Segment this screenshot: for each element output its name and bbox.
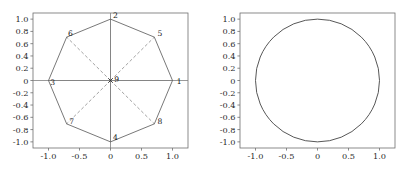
node-label-7: 7 <box>69 117 74 126</box>
x-tick-label: 0.5 <box>135 151 148 161</box>
node-label-1: 1 <box>177 77 182 86</box>
node-label-8: 8 <box>157 117 162 126</box>
y-tick-label: -1.0 <box>220 137 236 147</box>
node-label-9: 9 <box>114 75 119 84</box>
y-tick-label: 0.4 <box>15 51 28 61</box>
polygon-edge <box>49 37 67 80</box>
panel-octagon-graph: -1.0-0.500.51.0-1.0-0.8-0.6-0.4-0.200.20… <box>0 0 206 175</box>
y-tick-label: 0.4 <box>222 51 235 61</box>
panel-unit-circle: -1.0-0.500.51.0-1.0-0.8-0.6-0.4-0.200.20… <box>207 0 413 175</box>
figure-canvas: -1.0-0.500.51.0-1.0-0.8-0.6-0.4-0.200.20… <box>0 0 413 175</box>
x-tick-label: 1.0 <box>373 151 386 161</box>
y-tick-label: 0.6 <box>222 39 235 49</box>
y-tick-label: -0.2 <box>220 88 236 98</box>
y-tick-label: 0.8 <box>15 26 28 36</box>
y-tick-label: -0.6 <box>13 112 29 122</box>
x-tick-label: 0.5 <box>342 151 355 161</box>
polygon-edge <box>49 81 67 124</box>
y-tick-label: 0.6 <box>15 39 28 49</box>
x-tick-label: 1.0 <box>166 151 179 161</box>
polygon-edge <box>111 19 155 37</box>
x-tick-label: 0 <box>108 151 113 161</box>
x-tick-label: -0.5 <box>72 151 88 161</box>
y-tick-label: -0.6 <box>220 112 236 122</box>
octagon-graph-axes: -1.0-0.500.51.0-1.0-0.8-0.6-0.4-0.200.20… <box>0 0 206 175</box>
node-label-5: 5 <box>157 29 162 38</box>
polygon-edge <box>67 124 111 142</box>
y-tick-label: -0.4 <box>220 100 236 110</box>
dashed-spoke-edge <box>111 37 155 80</box>
y-tick-label: -0.8 <box>13 125 29 135</box>
y-tick-label: -0.4 <box>13 100 29 110</box>
polygon-edge <box>67 19 111 37</box>
axes-frame <box>240 13 395 148</box>
x-tick-label: -1.0 <box>248 151 264 161</box>
y-tick-label: 1.0 <box>222 14 235 24</box>
x-tick-label: -1.0 <box>41 151 57 161</box>
y-tick-label: 0.2 <box>222 63 235 73</box>
y-tick-label: 0 <box>23 76 28 86</box>
y-tick-label: 0.2 <box>15 63 28 73</box>
x-tick-label: 0 <box>315 151 320 161</box>
y-tick-label: 1.0 <box>15 14 28 24</box>
y-tick-label: -0.8 <box>220 125 236 135</box>
y-tick-label: -0.2 <box>13 88 29 98</box>
dashed-spoke-edge <box>111 81 155 124</box>
y-tick-label: 0.8 <box>222 26 235 36</box>
node-label-4: 4 <box>113 133 118 142</box>
y-tick-label: -1.0 <box>13 137 29 147</box>
node-label-3: 3 <box>50 78 55 87</box>
unit-circle-curve <box>256 19 380 142</box>
node-label-6: 6 <box>68 29 73 38</box>
polygon-edge <box>154 37 172 80</box>
x-tick-label: -0.5 <box>279 151 295 161</box>
node-label-2: 2 <box>113 11 118 20</box>
dashed-spoke-edge <box>67 37 111 80</box>
unit-circle-axes: -1.0-0.500.51.0-1.0-0.8-0.6-0.4-0.200.20… <box>207 0 413 175</box>
y-tick-label: 0 <box>230 76 235 86</box>
